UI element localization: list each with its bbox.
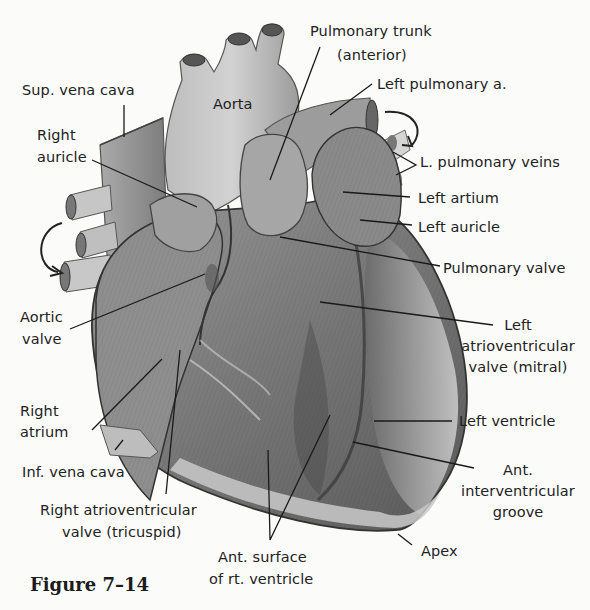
label-left-ventricle: Left ventricle <box>459 411 556 431</box>
label-pulmonary-trunk-line1: Pulmonary trunk <box>310 21 432 41</box>
pulmonary-trunk <box>240 134 307 235</box>
label-ant-groove-line3: groove <box>448 502 588 522</box>
label-right-atrium-line1: Right <box>20 401 59 421</box>
label-mitral-line1: Left <box>458 315 578 335</box>
label-ant-groove-line2: interventricular <box>448 481 588 501</box>
label-tricuspid-line1: Right atrioventricular <box>40 500 197 520</box>
label-left-pulmonary-artery: Left pulmonary a. <box>377 74 507 94</box>
label-left-pulmonary-veins: L. pulmonary veins <box>420 152 560 172</box>
label-left-atrium: Left artium <box>418 188 499 208</box>
label-aorta: Aorta <box>213 94 253 114</box>
label-sup-vena-cava: Sup. vena cava <box>22 80 135 100</box>
label-right-auricle-line1: Right <box>37 125 76 145</box>
figure-caption: Figure 7–14 <box>30 574 149 595</box>
label-pulmonary-trunk-line2: (anterior) <box>337 45 407 65</box>
label-left-auricle: Left auricle <box>418 217 500 237</box>
label-tricuspid-line2: valve (tricuspid) <box>62 522 181 542</box>
label-pulmonary-valve: Pulmonary valve <box>443 258 565 278</box>
label-aortic-valve-line1: Aortic <box>20 307 63 327</box>
label-ant-groove-line1: Ant. <box>448 460 588 480</box>
label-mitral-line2: atrioventricular <box>458 336 578 356</box>
label-right-auricle-line2: auricle <box>37 147 87 167</box>
label-right-atrium-line2: atrium <box>20 422 68 442</box>
label-apex: Apex <box>421 541 458 561</box>
label-inf-vena-cava: Inf. vena cava <box>22 462 125 482</box>
label-ant-surface-line1: Ant. surface <box>218 547 307 567</box>
label-mitral-line3: valve (mitral) <box>458 357 578 377</box>
label-aortic-valve-line2: valve <box>22 329 62 349</box>
label-ant-surface-line2: of rt. ventricle <box>209 569 313 589</box>
blood-flow-arrow-left <box>41 223 62 276</box>
